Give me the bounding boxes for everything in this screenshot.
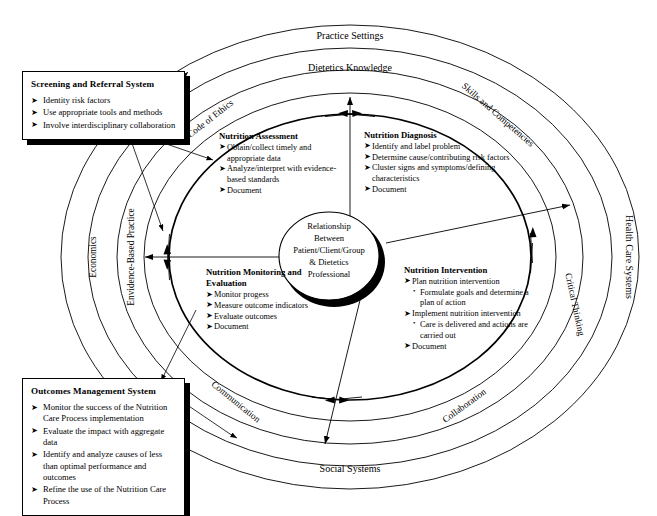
phase-nutrition-intervention: Nutrition Intervention ➤Plan nutrition i… (404, 265, 544, 352)
list-item: ➤Evaluate the impact with aggregate data (31, 426, 176, 449)
list-item-text: Document (227, 186, 262, 195)
arc-arrow-top-left-head (338, 110, 348, 117)
list-item: ➤Obtain/collect timely and appropriate d… (219, 143, 345, 165)
arrow-bullet-icon: ➤ (219, 164, 226, 174)
arrow-bullet-icon: ➤ (404, 309, 411, 319)
phase-assessment-list: ➤Obtain/collect timely and appropriate d… (219, 143, 345, 197)
list-item: ➤Analyze/interpret with evidence-based s… (219, 164, 345, 186)
arrow-bullet-icon: ➤ (206, 322, 213, 332)
callout-screening-title: Screening and Referral System (31, 78, 176, 90)
arrow-bullet-icon: ➤ (364, 141, 371, 151)
arrow-bullet-icon: ➤ (364, 163, 371, 173)
arc-arrow-bottom-right-head (339, 397, 349, 404)
connector-screening-to-outer-ring (186, 72, 188, 74)
phase-intervention-sublist-1: •Formulate goals and determine a plan of… (413, 288, 544, 310)
ring-label-evidence-based-practice: Envidence-Based Practice (126, 208, 136, 305)
phase-monitoring-title: Nutrition Monitoring and Evaluation (206, 267, 336, 290)
list-item: ➤Refine the use of the Nutrition Care Pr… (31, 484, 176, 507)
ring-label-collaboration: Collaboration (441, 386, 489, 424)
phase-diagnosis-list: ➤Identify and label problem ➤Determine c… (364, 142, 514, 196)
arc-arrow-bottom-left-head (325, 397, 335, 404)
list-item-text: Document (214, 322, 249, 331)
dot-bullet-icon: • (413, 319, 415, 328)
list-item: ➤Use appropriate tools and methods (31, 107, 176, 118)
phase-intervention-sublist-2: •Care is delivered and actions are carri… (413, 320, 544, 342)
list-item: •Care is delivered and actions are carri… (413, 320, 544, 342)
arrow-bullet-icon: ➤ (31, 425, 38, 436)
list-item-text: Monitor the success of the Nutrition Car… (43, 402, 167, 423)
ring-label-dietetics-knowledge: Dietetics Knowledge (308, 62, 393, 73)
list-item: ➤Plan nutrition intervention (404, 277, 544, 288)
ring-label-social-systems: Social Systems (320, 463, 381, 474)
list-item-text: Formulate goals and determine a plan of … (420, 288, 529, 308)
center-line-1: Relationship (307, 221, 350, 231)
list-item-text: Identity risk factors (43, 95, 110, 105)
list-item-text: Document (372, 185, 407, 194)
list-item: ➤Document (206, 322, 336, 333)
callout-outcomes-title: Outcomes Management System (31, 385, 176, 397)
list-item-text: Identify and analyze causes of less than… (43, 449, 162, 482)
list-item-text: Analyze/interpret with evidence-based st… (227, 164, 336, 184)
list-item: •Formulate goals and determine a plan of… (413, 288, 544, 310)
list-item-text: Care is delivered and actions are carrie… (420, 320, 528, 340)
list-item: ➤Document (364, 185, 514, 196)
list-item: ➤Monitor the success of the Nutrition Ca… (31, 402, 176, 425)
arrow-bullet-icon: ➤ (206, 311, 213, 321)
list-item-text: Measure outcome indicators (214, 301, 308, 310)
list-item-text: Evaluate outcomes (214, 312, 277, 321)
arrow-bullet-icon: ➤ (31, 402, 38, 413)
list-item-text: Evaluate the impact with aggregate data (43, 426, 164, 447)
list-item-text: Plan nutrition intervention (412, 277, 500, 286)
phase-assessment-title: Nutrition Assessment (219, 131, 345, 142)
phase-diagnosis-title: Nutrition Diagnosis (364, 130, 514, 141)
list-item-text: Document (412, 342, 447, 351)
phase-intervention-list: ➤Plan nutrition intervention •Formulate … (404, 277, 544, 352)
list-item: ➤Identify and label problem (364, 142, 514, 153)
ring-label-practice-settings: Practice Settings (317, 30, 384, 41)
ring-label-communication: Communication (209, 379, 262, 425)
arrow-bullet-icon: ➤ (206, 300, 213, 310)
connector-outcomes-to-ring-b (230, 434, 237, 438)
arrow-bullet-icon: ➤ (31, 119, 38, 130)
center-line-2: Between (314, 233, 345, 243)
arrow-bullet-icon: ➤ (31, 449, 38, 460)
ring-label-health-care-systems: Health Care Systems (624, 215, 635, 299)
list-item-text: Implement nutrition intervention (412, 309, 521, 318)
callout-screening-and-referral-system[interactable]: Screening and Referral System ➤Identity … (22, 71, 185, 140)
list-item: ➤Cluster signs and symptoms/defining cha… (364, 163, 514, 185)
list-item: ➤Document (404, 342, 544, 353)
list-item: ➤Identify and analyze causes of less tha… (31, 449, 176, 483)
phase-monitoring-list: ➤Monitor progess ➤Measure outcome indica… (206, 290, 336, 333)
arrow-bullet-icon: ➤ (206, 290, 213, 300)
list-item: ➤Involve interdisciplinary collaboration (31, 120, 176, 131)
spoke-right (386, 205, 570, 243)
phase-nutrition-assessment: Nutrition Assessment ➤Obtain/collect tim… (219, 131, 345, 197)
list-item-text: Cluster signs and symptoms/defining char… (372, 163, 495, 183)
list-item: ➤Evaluate outcomes (206, 312, 336, 323)
arrow-bullet-icon: ➤ (31, 484, 38, 495)
arrow-bullet-icon: ➤ (219, 185, 226, 195)
arc-arrow-right-up-head (529, 227, 537, 238)
list-item: ➤Monitor progess (206, 290, 336, 301)
connector-outcomes-to-monitoring (161, 310, 196, 381)
list-item-text: Obtain/collect timely and appropriate da… (227, 143, 311, 163)
list-item-text: Identify and label problem (372, 142, 460, 151)
center-line-4: & Dietetics (309, 257, 349, 267)
center-line-3: Patient/Client/Group (293, 245, 365, 255)
phase-nutrition-diagnosis: Nutrition Diagnosis ➤Identify and label … (364, 130, 514, 196)
phase-nutrition-monitoring-and-evaluation: Nutrition Monitoring and Evaluation ➤Mon… (206, 267, 336, 333)
arc-arrow-top-right-head (352, 110, 362, 117)
list-item-text: Refine the use of the Nutrition Care Pro… (43, 484, 166, 505)
callout-outcomes-management-system[interactable]: Outcomes Management System ➤Monitor the … (22, 378, 185, 516)
dot-bullet-icon: • (413, 287, 415, 296)
list-item: ➤Determine cause/contributing risk facto… (364, 153, 514, 164)
arrow-bullet-icon: ➤ (31, 95, 38, 106)
ring-label-economics: Economics (88, 236, 98, 278)
arrow-bullet-icon: ➤ (404, 276, 411, 286)
arrow-bullet-icon: ➤ (404, 341, 411, 351)
arrow-bullet-icon: ➤ (31, 107, 38, 118)
phase-intervention-title: Nutrition Intervention (404, 265, 544, 276)
list-item: ➤Identity risk factors (31, 95, 176, 106)
arrow-bullet-icon: ➤ (364, 184, 371, 194)
list-item: ➤Measure outcome indicators (206, 301, 336, 312)
